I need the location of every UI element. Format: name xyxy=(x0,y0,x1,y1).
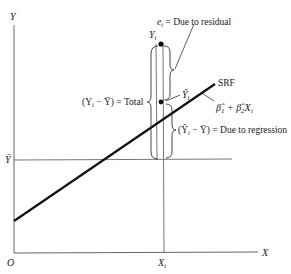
residual-bracket xyxy=(164,46,174,100)
yi-label: Yi xyxy=(149,29,157,42)
x-axis xyxy=(14,252,258,253)
ybar-line xyxy=(14,159,232,160)
srf-label: SRF xyxy=(218,78,235,88)
yhat-label: Ŷi xyxy=(182,89,190,102)
srf-equation-leader xyxy=(202,93,214,101)
yi-point xyxy=(158,41,163,46)
xi-vertical-line xyxy=(163,44,164,253)
residual-leader xyxy=(175,24,194,69)
yhat-leader xyxy=(166,95,180,101)
yi-inner-line xyxy=(156,44,157,159)
regression-decomposition-diagram: Y X O Ȳ Xi Yi Ŷi ei = Due to residual SR… xyxy=(0,0,291,274)
xi-label: Xi xyxy=(157,257,166,270)
regression-annotation: (Ŷi − Ȳ) = Due to regression xyxy=(178,124,287,136)
origin-label: O xyxy=(7,257,14,268)
total-annotation: (Yi − Ȳ) = Total xyxy=(82,97,144,108)
y-axis-label: Y xyxy=(10,11,17,22)
residual-annotation: ei = Due to residual xyxy=(157,17,232,28)
yhat-point xyxy=(159,100,164,105)
x-axis-label: X xyxy=(261,247,269,258)
srf-equation: β̂1+β̂2Xi xyxy=(215,102,253,115)
ybar-label: Ȳ xyxy=(5,154,12,165)
